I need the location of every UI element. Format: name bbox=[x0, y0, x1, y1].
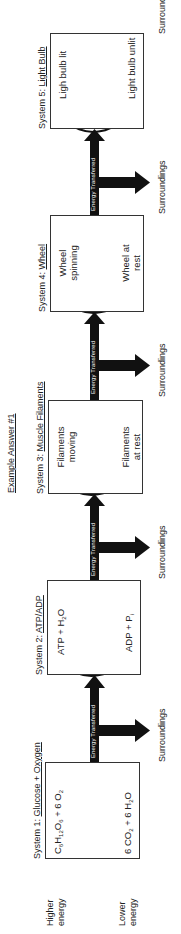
system-2-high-state: ATP + H2O bbox=[55, 609, 70, 655]
system-4-name: Wheel bbox=[37, 244, 47, 270]
system-4-title: System 4: Wheel bbox=[37, 244, 47, 312]
system-3-name: Muscle Filaments bbox=[35, 381, 45, 451]
system-1-name: Glucose + Oxygen bbox=[32, 742, 42, 816]
system-1-low-state: 6 CO2 + 6 H2O bbox=[122, 792, 137, 854]
system-5-title: System 5: Light Bulb bbox=[37, 46, 47, 129]
system-1-prefix: System 1: bbox=[32, 819, 42, 859]
system-5-low-state: Light bulb unlit bbox=[126, 38, 137, 99]
system-3-prefix: System 3: bbox=[35, 454, 45, 494]
system-2-prefix: System 2: bbox=[34, 635, 44, 675]
surroundings-label-1: Surroundings bbox=[157, 708, 167, 762]
system-3-low-state: Filaments at rest bbox=[120, 426, 142, 468]
system-4-low-state: Wheel at rest bbox=[120, 242, 142, 284]
system-1-high-state: C6H12O6 + 6 O2 bbox=[52, 790, 67, 854]
system-1-title: System 1: Glucose + Oxygen bbox=[32, 742, 42, 859]
system-2-name: ATP/ADP bbox=[34, 595, 44, 633]
transfer-label-3: Energy Transferred bbox=[90, 341, 96, 394]
system-2-low-state: ADP + Pi bbox=[123, 614, 138, 652]
system-3-high-state: Filaments moving bbox=[55, 426, 77, 468]
surroundings-label-2: Surroundings bbox=[157, 525, 167, 579]
surroundings-label-5: Surroundings bbox=[157, 0, 167, 34]
system-5-high-state: Ligh bulb lit bbox=[57, 51, 68, 99]
transfer-label-4: Energy Transferred bbox=[90, 158, 96, 211]
surroundings-label-4: Surroundings bbox=[157, 160, 167, 214]
system-5-prefix: System 5: bbox=[37, 89, 47, 129]
system-4-high-state: Wheel spinning bbox=[57, 242, 79, 284]
energy-transfer-diagram: Example Answer #1 Higher energy Lower en… bbox=[0, 0, 181, 934]
system-3-title: System 3: Muscle Filaments bbox=[35, 381, 45, 494]
system-2-title: System 2: ATP/ADP bbox=[34, 595, 44, 675]
system-5-name: Light Bulb bbox=[37, 46, 47, 86]
transfer-label-1: Energy Transferred bbox=[90, 705, 96, 758]
surroundings-label-3: Surroundings bbox=[157, 343, 167, 397]
transfer-label-2: Energy Transferred bbox=[90, 523, 96, 576]
system-4-prefix: System 4: bbox=[37, 272, 47, 312]
